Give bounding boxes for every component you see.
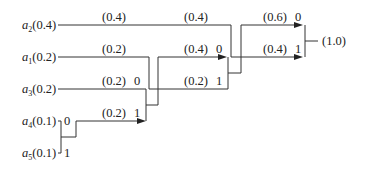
bit-merge-a1-a3-a4-a5: 0: [295, 10, 301, 24]
prob-a1-stage3: (0.2): [184, 74, 208, 88]
symbol-label-a2: a2(0.4): [22, 18, 56, 34]
bit-a3: 0: [134, 74, 140, 88]
symbol-label-a5: a5(0.1): [22, 146, 56, 162]
prob-a1: (0.2): [102, 42, 126, 56]
huffman-tree-diagram: a2(0.4) a1(0.2) a3(0.2) a4(0.1) a5(0.1) …: [0, 0, 367, 175]
prob-merge-a1-a3-a4-a5: (0.6): [263, 10, 287, 24]
prob-root: (1.0): [322, 34, 346, 48]
bit-a1-stage3: 1: [216, 74, 222, 88]
symbol-label-a1: a1(0.2): [22, 50, 56, 66]
edge-merge-a4-a5: [61, 121, 140, 137]
bracket-a4-a5: [58, 121, 61, 153]
bit-a5: 1: [64, 146, 70, 160]
prob-merge-a3-a4-a5: (0.4): [184, 42, 208, 56]
bit-merge-a3-a4-a5: 0: [216, 42, 222, 56]
symbol-label-a4: a4(0.1): [22, 114, 56, 130]
prob-merge-a4-a5: (0.2): [102, 106, 126, 120]
bit-a4: 0: [64, 114, 70, 128]
symbol-label-a3: a3(0.2): [22, 82, 56, 98]
prob-a3: (0.2): [102, 74, 126, 88]
bit-merge-a4-a5: 1: [134, 106, 140, 120]
bit-a2-final: 1: [295, 42, 301, 56]
edge-a2: [58, 25, 297, 57]
prob-a2: (0.4): [102, 10, 126, 24]
prob-a2-final: (0.4): [263, 42, 287, 56]
prob-a2-stage2: (0.4): [184, 10, 208, 24]
